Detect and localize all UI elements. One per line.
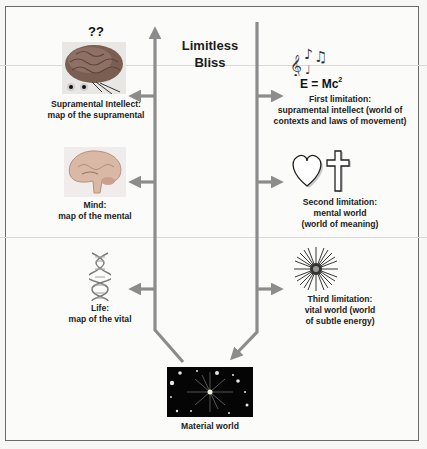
- caption-line: Life:: [50, 303, 150, 314]
- caption-line: supramental intellect (world of: [270, 105, 410, 116]
- title-line-2: Bliss: [170, 54, 250, 71]
- heart-and-cross-icon: [290, 150, 352, 192]
- brain-cross-section-icon: [64, 147, 126, 197]
- caption-line: Second limitation:: [275, 197, 405, 208]
- caption-line: First limitation:: [270, 94, 410, 105]
- caption-line: Mind:: [40, 200, 150, 211]
- svg-text:♫: ♫: [314, 48, 327, 66]
- right-descending-arrow: [234, 22, 257, 356]
- svg-text:𝄞: 𝄞: [290, 53, 302, 76]
- starburst-icon: [293, 246, 339, 292]
- caption-line: vital world (world: [280, 305, 400, 316]
- caption-line: (world of meaning): [275, 219, 405, 230]
- life-caption: Life: map of the vital: [50, 303, 150, 325]
- formula-base: E = Mc: [300, 77, 338, 91]
- formula-exponent: 2: [338, 76, 342, 83]
- third-limitation-caption: Third limitation: vital world (world of …: [280, 294, 400, 327]
- mind-caption: Mind: map of the mental: [40, 200, 150, 222]
- center-title: Limitless Bliss: [170, 37, 250, 71]
- svg-text:♪: ♪: [304, 46, 313, 62]
- material-world-caption: Material world: [150, 421, 270, 432]
- caption-line: contexts and laws of movement): [270, 116, 410, 127]
- brain-photo-icon: [62, 42, 126, 94]
- question-marks: ??: [88, 24, 104, 39]
- caption-line: map of the mental: [40, 211, 150, 222]
- title-line-1: Limitless: [170, 37, 250, 54]
- caption-line: Supramental Intellect:: [36, 99, 156, 110]
- dna-helix-icon: [89, 252, 111, 302]
- caption-line: map of the vital: [50, 314, 150, 325]
- first-limitation-caption: First limitation: supramental intellect …: [270, 94, 410, 127]
- left-ascending-arrow: [155, 32, 183, 362]
- second-limitation-caption: Second limitation: mental world (world o…: [275, 197, 405, 230]
- starfield-icon: [167, 367, 253, 417]
- caption-line: of subtle energy): [280, 316, 400, 327]
- caption-line: Third limitation:: [280, 294, 400, 305]
- formula-emc2: E = Mc2: [300, 76, 342, 91]
- caption-line: map of the supramental: [36, 110, 156, 121]
- music-notes-icon: 𝄞 ♪ ♫ ♩: [290, 44, 334, 76]
- svg-text:♩: ♩: [305, 63, 311, 76]
- caption-line: mental world: [275, 208, 405, 219]
- supramental-intellect-caption: Supramental Intellect: map of the supram…: [36, 99, 156, 121]
